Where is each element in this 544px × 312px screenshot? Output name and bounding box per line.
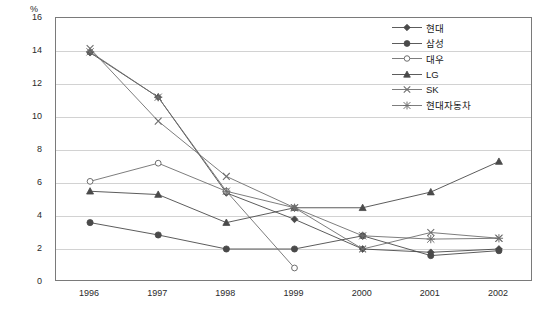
circle-open-marker	[87, 178, 93, 184]
circle-filled-marker	[496, 248, 502, 254]
triangle-marker	[87, 188, 94, 194]
series-LG	[87, 158, 503, 225]
asterisk-marker	[154, 93, 162, 101]
triangle-marker	[495, 158, 502, 164]
circle-filled-marker	[155, 232, 161, 238]
legend-item-label: SK	[424, 84, 439, 95]
cross-x-marker	[155, 118, 162, 125]
triangle-marker	[427, 188, 434, 194]
legend-item-2[interactable]: 삼성	[390, 36, 520, 52]
asterisk-marker	[359, 232, 367, 240]
asterisk-marker	[427, 235, 435, 243]
circle-filled-marker	[428, 253, 434, 259]
legend-item-label: 대우	[424, 52, 444, 66]
circle-filled-marker	[404, 40, 410, 46]
asterisk-marker	[222, 187, 230, 195]
chart-legend: 현대삼성대우LGSK현대자동차	[390, 20, 520, 113]
asterisk-marker	[390, 99, 424, 112]
legend-item-5[interactable]: SK	[390, 82, 520, 98]
legend-item-label: 삼성	[424, 36, 444, 50]
x-axis-tick: 1997	[147, 288, 167, 298]
series-대우	[87, 160, 297, 271]
diamond-marker	[404, 25, 410, 31]
x-axis-tick: 1998	[215, 288, 235, 298]
diamond-marker	[291, 216, 298, 223]
circle-open-marker	[404, 56, 410, 62]
asterisk-marker	[290, 204, 298, 212]
cross-x-marker	[223, 173, 230, 180]
legend-item-3[interactable]: 대우	[390, 51, 520, 67]
circle-filled-marker	[291, 246, 297, 252]
line-chart: % 0246810121416 199619971998199920002001…	[0, 0, 544, 312]
circle-open-marker	[390, 52, 424, 65]
cross-x-marker	[390, 83, 424, 96]
legend-item-label: 현대	[424, 21, 444, 35]
diamond-marker	[390, 21, 424, 34]
legend-item-label: 현대자동차	[424, 98, 471, 112]
legend-item-label: LG	[424, 69, 439, 80]
asterisk-marker	[495, 234, 503, 242]
x-axis-tick: 1999	[283, 288, 303, 298]
circle-filled-marker	[87, 220, 93, 226]
circle-filled-marker	[390, 37, 424, 50]
circle-open-marker	[292, 265, 298, 271]
asterisk-marker	[86, 48, 94, 56]
legend-item-1[interactable]: 현대	[390, 20, 520, 36]
x-axis-tick: 2000	[352, 288, 372, 298]
x-axis-tick: 2001	[420, 288, 440, 298]
circle-open-marker	[155, 160, 161, 166]
x-axis-tick: 2002	[488, 288, 508, 298]
circle-filled-marker	[223, 246, 229, 252]
x-axis-tick: 1996	[79, 288, 99, 298]
asterisk-marker	[403, 101, 411, 109]
legend-item-4[interactable]: LG	[390, 67, 520, 83]
legend-item-6[interactable]: 현대자동차	[390, 98, 520, 114]
triangle-marker	[390, 68, 424, 81]
